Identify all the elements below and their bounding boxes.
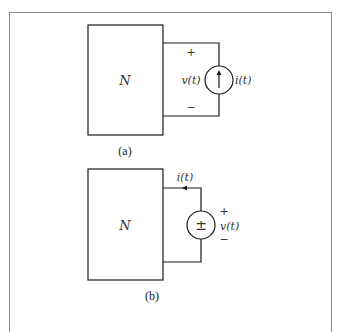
minus-sign-a: − xyxy=(186,101,195,114)
network-label-b: N xyxy=(118,218,131,233)
caption-b: (b) xyxy=(145,289,159,303)
plus-sign-a: + xyxy=(186,46,195,59)
current-arrow-icon xyxy=(182,186,187,191)
top-wire-b xyxy=(163,188,201,211)
current-label-b: i(t) xyxy=(177,171,194,184)
panel-a: N + − v(t) i(t) (a) xyxy=(88,25,252,158)
panel-b: N ± i(t) + v(t) − (b) xyxy=(88,169,239,303)
current-label-a: i(t) xyxy=(235,74,252,87)
voltage-label-b: v(t) xyxy=(220,220,239,233)
minus-sign-b: − xyxy=(219,233,228,246)
plus-sign-b: + xyxy=(219,205,228,218)
plus-minus-icon: ± xyxy=(195,217,207,233)
arrow-head-icon xyxy=(217,70,222,75)
voltage-label-a: v(t) xyxy=(181,74,200,87)
network-label-a: N xyxy=(118,73,131,88)
caption-a: (a) xyxy=(118,144,131,158)
bottom-wire-b xyxy=(163,239,201,262)
